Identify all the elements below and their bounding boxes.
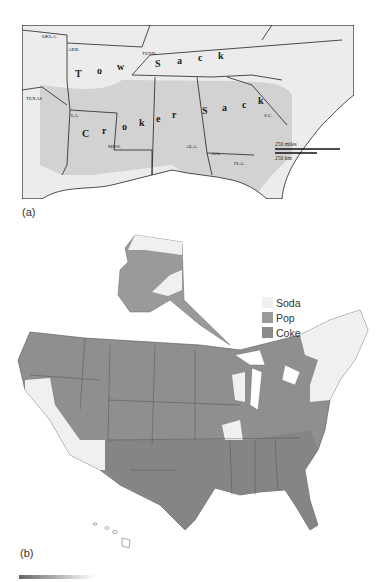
region-letter: w bbox=[117, 61, 125, 72]
region-letter: S bbox=[155, 58, 161, 69]
panel-label-b: (b) bbox=[20, 547, 33, 559]
legend: Soda Pop Coke bbox=[262, 295, 301, 340]
region-letter: c bbox=[242, 99, 247, 110]
map-b-soda-pop-coke bbox=[0, 230, 384, 560]
region-letter: k bbox=[139, 117, 145, 128]
scale-km: 250 km bbox=[275, 155, 292, 161]
legend-item-pop: Pop bbox=[262, 310, 301, 325]
state-label: TEXAS bbox=[26, 96, 42, 101]
region-letter: r bbox=[172, 109, 177, 120]
state-label: S.C. bbox=[264, 113, 273, 118]
state-label: TENN. bbox=[142, 51, 157, 56]
region-letter: k bbox=[218, 50, 224, 61]
state-label: ARK. bbox=[68, 47, 80, 52]
legend-label: Coke bbox=[276, 327, 301, 339]
region-letter: a bbox=[222, 102, 227, 113]
legend-label: Soda bbox=[276, 297, 301, 309]
scale-miles: 250 miles bbox=[275, 141, 297, 147]
region-letter: o bbox=[97, 65, 102, 76]
pop-swatch bbox=[262, 312, 273, 323]
coke-swatch bbox=[262, 327, 273, 338]
legend-item-soda: Soda bbox=[262, 295, 301, 310]
panel-label-a: (a) bbox=[22, 206, 35, 218]
map-a-southern-us: 250 miles 250 km OKLA. ARK. TENN. TEXAS … bbox=[22, 25, 354, 199]
region-letter: o bbox=[122, 121, 127, 132]
decorative-gradient-bar bbox=[19, 575, 95, 579]
region-letter: r bbox=[102, 125, 107, 136]
state-label: MISS. bbox=[108, 144, 121, 149]
region-letter: C bbox=[82, 128, 89, 139]
state-label: ALA. bbox=[186, 144, 198, 149]
region-letter: T bbox=[75, 68, 82, 79]
region-letter: k bbox=[258, 95, 264, 106]
legend-label: Pop bbox=[276, 312, 295, 324]
region-letter: a bbox=[177, 55, 182, 66]
legend-item-coke: Coke bbox=[262, 325, 301, 340]
state-label: FLA. bbox=[234, 161, 245, 166]
state-label: LA. bbox=[71, 113, 79, 118]
state-label: OKLA. bbox=[42, 34, 57, 39]
state-label: GA. bbox=[212, 151, 220, 156]
soda-swatch bbox=[262, 297, 273, 308]
region-letter: e bbox=[156, 113, 161, 124]
region-letter: c bbox=[198, 52, 203, 63]
region-letter: S bbox=[202, 105, 208, 116]
